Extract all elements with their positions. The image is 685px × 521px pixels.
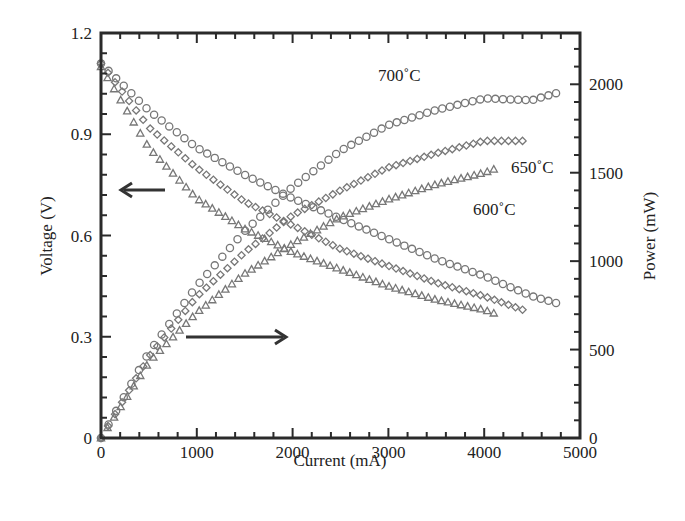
annotation-650c: 650˚C — [511, 158, 554, 177]
y2-tick-label: 0 — [589, 429, 598, 448]
axes-layer: 01000200030004000500000.30.60.91.2050010… — [71, 24, 623, 462]
x-tick-label: 0 — [97, 443, 106, 462]
y-tick-label: 1.2 — [71, 24, 92, 43]
right-arrow-icon — [186, 330, 286, 344]
annotation-600c: 600˚C — [473, 200, 516, 219]
fuel-cell-iv-chart: 01000200030004000500000.30.60.91.2050010… — [0, 0, 685, 521]
y-tick-label: 0.6 — [71, 227, 92, 246]
series-layer — [97, 60, 559, 442]
annotation-700c: 700˚C — [378, 66, 421, 85]
x-axis-title: Current (mA) — [293, 451, 386, 470]
left-arrow-icon — [121, 183, 165, 197]
y2-axis-title: Power (mW) — [640, 192, 659, 280]
y-tick-label: 0 — [84, 429, 93, 448]
y-tick-label: 0.9 — [71, 125, 92, 144]
y-tick-label: 0.3 — [71, 328, 92, 347]
y2-tick-label: 1000 — [589, 252, 623, 271]
series-650-c-voltage — [97, 60, 526, 314]
x-tick-label: 1000 — [180, 443, 214, 462]
y2-tick-label: 2000 — [589, 75, 623, 94]
y-axis-title: Voltage (V) — [37, 196, 56, 275]
y2-tick-label: 1500 — [589, 164, 623, 183]
y2-tick-label: 500 — [589, 341, 615, 360]
x-tick-label: 4000 — [467, 443, 501, 462]
